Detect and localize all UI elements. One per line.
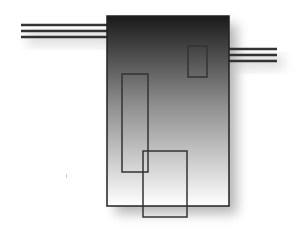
stray-mark bbox=[66, 174, 67, 178]
main-block bbox=[107, 16, 229, 206]
component-diagram bbox=[0, 0, 298, 239]
